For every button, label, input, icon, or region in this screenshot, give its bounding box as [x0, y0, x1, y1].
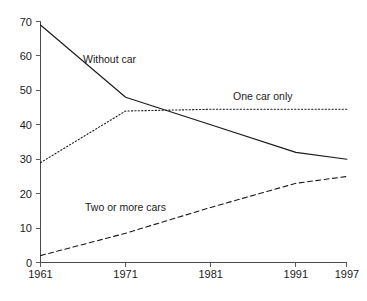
y-tick-label-70: 70 — [20, 16, 32, 28]
series-line-without-car — [41, 25, 347, 159]
y-tick-label-50: 50 — [20, 84, 32, 96]
series-label-without-car: Without car — [83, 53, 137, 65]
series-line-two-or-more-cars — [41, 176, 347, 255]
x-tick-label-1961: 1961 — [28, 268, 52, 280]
x-tick-label-1991: 1991 — [284, 268, 308, 280]
y-axis-ticks — [36, 22, 41, 263]
series-label-one-car-only: One car only — [233, 90, 293, 102]
x-tick-label-1997: 1997 — [335, 268, 359, 280]
y-axis-tick-labels: 70 60 50 40 30 20 10 0 — [20, 16, 32, 269]
y-tick-label-20: 20 — [20, 188, 32, 200]
y-tick-label-40: 40 — [20, 119, 32, 131]
y-tick-label-10: 10 — [20, 222, 32, 234]
chart-plot-area: 70 60 50 40 30 20 10 0 1961 1971 1981 19… — [0, 0, 367, 301]
series-line-one-car-only — [41, 109, 347, 162]
y-tick-label-0: 0 — [26, 257, 32, 269]
y-tick-label-30: 30 — [20, 153, 32, 165]
y-tick-label-60: 60 — [20, 50, 32, 62]
line-chart-container: 70 60 50 40 30 20 10 0 1961 1971 1981 19… — [0, 0, 367, 301]
series-label-two-or-more-cars: Two or more cars — [85, 201, 166, 213]
x-tick-label-1971: 1971 — [113, 268, 137, 280]
x-axis-tick-labels: 1961 1971 1981 1991 1997 — [28, 268, 359, 280]
x-axis-ticks — [41, 263, 347, 267]
x-tick-label-1981: 1981 — [198, 268, 222, 280]
